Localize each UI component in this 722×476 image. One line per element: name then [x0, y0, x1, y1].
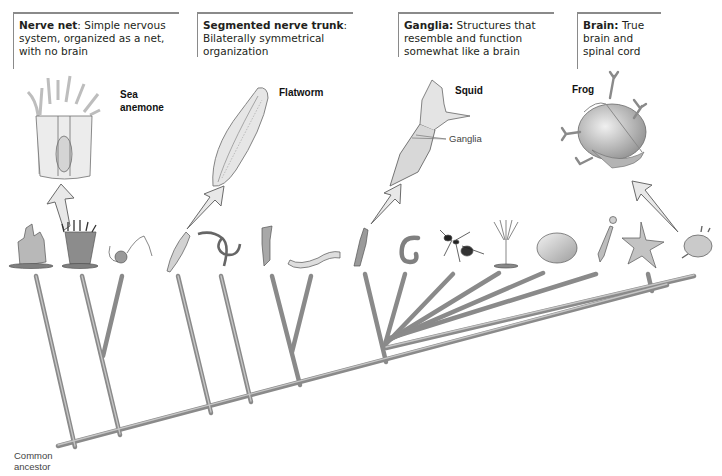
crinoid-illustration — [494, 220, 518, 268]
ribbon-worm-illustration — [198, 233, 240, 266]
arrow-up-icon — [47, 184, 74, 230]
tip-organisms — [9, 217, 712, 273]
arrow-up-left-icon — [632, 181, 678, 232]
sea-anemone-small-illustration — [62, 220, 98, 269]
frog-illustration — [562, 72, 646, 168]
squid-small-illustration — [354, 228, 368, 266]
roundworm-illustration — [288, 252, 340, 268]
sponge-illustration — [9, 224, 53, 269]
arrow-icons — [47, 181, 678, 232]
hydroid-illustration — [598, 217, 617, 263]
jellyfish-illustration — [109, 236, 152, 263]
rotifer-illustration — [262, 226, 272, 266]
earthworm-illustration — [402, 238, 418, 262]
squid-illustration — [390, 80, 470, 186]
arrow-up-right-icon — [371, 184, 401, 224]
tree-branches — [36, 273, 694, 447]
sea-star-illustration — [622, 222, 664, 268]
frog-small-illustration — [682, 226, 712, 258]
arrow-up-right-icon — [187, 186, 224, 229]
flatworm-small-illustration — [167, 232, 190, 272]
sea-anemone-illustration — [28, 76, 100, 179]
clam-illustration — [537, 233, 577, 263]
phylogenetic-tree — [0, 0, 722, 476]
ant-illustration — [440, 230, 484, 262]
flatworm-illustration — [213, 88, 268, 186]
